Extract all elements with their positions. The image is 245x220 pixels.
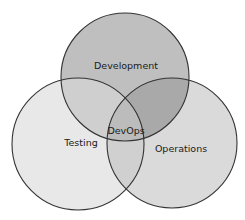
operations-label: Operations	[155, 143, 207, 154]
devops-venn-diagram: Development Testing Operations DevOps	[0, 0, 245, 220]
testing-label: Testing	[63, 137, 97, 148]
devops-label: DevOps	[107, 125, 144, 136]
development-label: Development	[94, 60, 158, 71]
